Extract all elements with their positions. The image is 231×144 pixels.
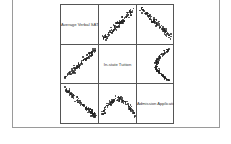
data-point [168,34,170,36]
data-point [156,63,158,65]
data-point [113,29,115,31]
data-point [130,12,132,14]
data-point [124,101,126,103]
data-point [64,86,66,88]
data-point [67,73,69,75]
data-point [158,21,160,23]
data-point [158,61,160,63]
diagonal-cell-in-state-tuition: In-state Tuition [99,45,136,83]
data-point [88,57,90,59]
data-point [132,12,134,14]
data-point [65,89,67,91]
data-point [116,100,118,102]
data-point [90,55,92,57]
data-point [166,35,168,37]
data-point [158,58,160,60]
data-point [128,17,130,19]
data-point [161,25,163,27]
data-point [94,113,96,115]
scatter-panel-sat-vs-tuition [61,45,98,83]
data-point [72,93,74,95]
data-point [170,33,172,35]
data-point [116,29,118,31]
data-point [122,16,124,18]
data-point [163,76,165,78]
data-point [82,63,84,65]
data-point [118,100,120,102]
data-point [104,113,106,115]
diagonal-cell-admission-applications: Admission Applicatio [137,84,174,123]
data-point [159,73,161,75]
data-point [107,38,109,40]
data-point [164,50,166,52]
data-point [88,107,90,109]
data-point [170,38,172,40]
data-point [116,22,118,24]
data-point [159,55,161,57]
data-point [118,96,120,98]
data-point [150,18,152,20]
data-point [91,52,93,54]
scatter-panel-tuition-vs-applications [99,84,136,123]
data-point [105,39,107,41]
data-point [103,110,105,112]
data-point [143,10,145,12]
data-point [88,56,90,58]
data-point [77,102,79,104]
data-point [106,105,108,107]
data-point [166,51,168,53]
data-point [73,68,75,70]
data-point [166,49,168,51]
data-point [78,100,80,102]
data-point [90,115,92,117]
data-point [114,25,116,27]
data-point [156,66,158,68]
data-point [85,108,87,110]
data-point [73,70,75,72]
scatter-panel-applications-vs-tuition [137,45,174,83]
data-point [156,70,158,72]
data-point [155,23,157,25]
data-point [109,104,111,106]
variable-label-admission-applications: Admission Applicatio [137,101,174,106]
data-point [69,90,71,92]
data-point [92,113,94,115]
scatter-panel-tuition-vs-sat [99,5,136,44]
data-point [125,101,127,103]
data-point [148,15,150,17]
data-point [130,107,132,109]
data-point [166,78,168,80]
data-point [163,54,165,56]
data-point [142,9,144,11]
data-point [94,50,96,52]
data-point [114,99,116,101]
variable-label-average-verbal-sat: Average Verbal SAT [61,22,98,27]
data-point [168,37,170,39]
scatterplot-matrix: Average Verbal SAT In-state Tuition Admi… [60,4,174,124]
data-point [86,57,88,59]
data-point [93,115,95,117]
data-point [134,112,136,114]
data-point [81,62,83,64]
data-point [76,100,78,102]
data-point [116,26,118,28]
data-point [74,67,76,69]
data-point [105,36,107,38]
data-point [159,68,161,70]
scatter-panel-applications-vs-sat [137,5,174,44]
data-point [156,19,158,21]
data-point [130,14,132,16]
data-point [164,33,166,35]
data-point [121,21,123,23]
data-point [108,32,110,34]
data-point [120,96,122,98]
diagonal-cell-average-verbal-sat: Average Verbal SAT [61,5,98,44]
data-point [82,104,84,106]
data-point [83,59,85,61]
data-point [103,38,105,40]
data-point [79,68,81,70]
data-point [127,15,129,17]
data-point [74,72,76,74]
data-point [73,97,75,99]
data-point [164,52,166,54]
